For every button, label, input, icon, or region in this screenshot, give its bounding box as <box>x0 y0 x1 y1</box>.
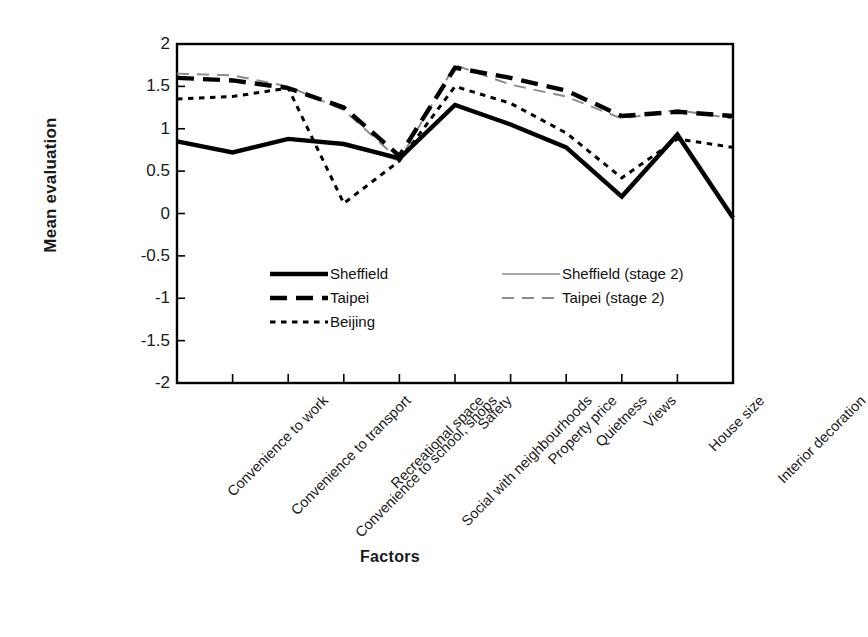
x-category-label-10: Interior decoration <box>775 393 868 486</box>
legend-column-left: SheffieldTaipeiBeijing <box>268 262 388 334</box>
legend-swatch <box>500 289 562 307</box>
legend-swatch <box>268 289 330 307</box>
x-axis-title: Factors <box>0 548 780 566</box>
chart-legend: SheffieldTaipeiBeijing Sheffield (stage … <box>268 262 708 334</box>
legend-label: Sheffield <box>330 266 388 282</box>
legend-swatch-line <box>500 289 562 307</box>
legend-swatch-line <box>268 289 330 307</box>
legend-swatch <box>268 313 330 331</box>
legend-swatch <box>268 265 330 283</box>
legend-swatch-line <box>268 313 330 331</box>
legend-label: Taipei <box>330 290 369 306</box>
legend-swatch-line <box>268 265 330 283</box>
legend-swatch <box>500 265 562 283</box>
legend-column-right: Sheffield (stage 2)Taipei (stage 2) <box>500 262 683 310</box>
legend-item-taipei[interactable]: Taipei <box>268 286 388 310</box>
legend-item-taipei-stage-2[interactable]: Taipei (stage 2) <box>500 286 683 310</box>
legend-label: Taipei (stage 2) <box>562 290 665 306</box>
legend-swatch-line <box>500 265 562 283</box>
legend-item-sheffield-stage-2[interactable]: Sheffield (stage 2) <box>500 262 683 286</box>
legend-label: Sheffield (stage 2) <box>562 266 683 282</box>
legend-label: Beijing <box>330 314 375 330</box>
legend-item-sheffield[interactable]: Sheffield <box>268 262 388 286</box>
legend-item-beijing[interactable]: Beijing <box>268 310 388 334</box>
